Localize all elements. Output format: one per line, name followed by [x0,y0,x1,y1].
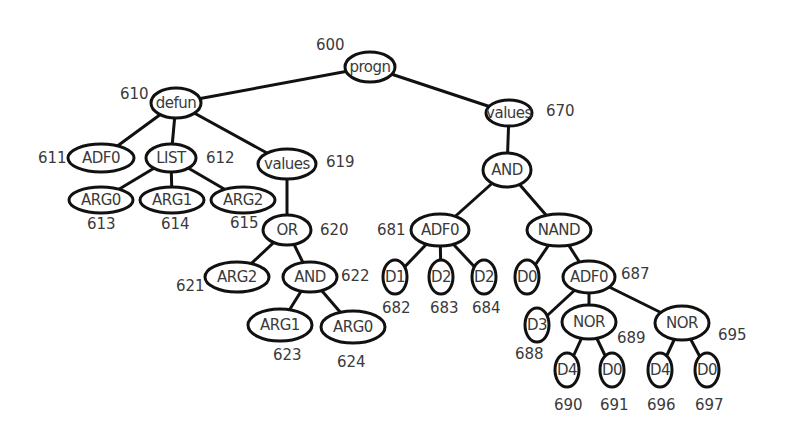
node-label: values [264,155,310,173]
node-label: ARG0 [333,318,373,336]
tree-node-n680: AND [483,153,531,187]
node-label: D4 [650,361,670,379]
node-label: NOR [666,314,698,332]
reference-numeral: 695 [718,326,747,344]
node-label: D2 [474,268,494,286]
tree-node-n670: values [486,100,533,126]
reference-numeral: 689 [617,329,646,347]
tree-node-n611: ADF0 [68,144,134,172]
reference-numeral: 610 [120,85,149,103]
tree-node-n695: NOR [655,306,709,340]
tree-node-n689: NOR [562,305,616,339]
tree-node-n621: ARG2 [205,262,269,292]
reference-numeral: 683 [430,299,459,317]
node-label: progn [349,58,390,76]
node-label: D1 [385,268,405,286]
tree-node-n685: NAND [527,214,591,246]
node-label: D3 [527,316,547,334]
node-label: ARG1 [152,191,192,209]
node-label: ADF0 [570,268,608,286]
tree-node-n690: D4 [555,353,579,387]
reference-numeral: 615 [230,214,259,232]
node-label: D2 [431,268,451,286]
node-label: ARG2 [217,268,257,286]
node-label: values [486,104,532,122]
reference-numeral: 690 [554,396,583,414]
node-label: ADF0 [82,149,120,167]
node-label: LIST [156,149,187,167]
reference-numerals: 6006106116126136146156196206216226236246… [38,36,747,414]
node-label: ARG1 [260,316,300,334]
tree-node-n612: LIST [146,144,196,172]
node-label: ARG0 [81,191,121,209]
reference-numeral: 620 [320,221,349,239]
tree-node-n622: AND [283,262,337,292]
reference-numeral: 622 [341,267,370,285]
node-label: ARG2 [223,191,263,209]
reference-numeral: 611 [38,149,67,167]
reference-numeral: 613 [87,215,116,233]
reference-numeral: 684 [472,299,501,317]
node-label: D0 [697,361,717,379]
reference-numeral: 670 [546,102,575,120]
tree-node-n683: D2 [429,260,453,294]
node-label: NAND [538,221,580,239]
tree-node-n614: ARG1 [140,187,204,213]
reference-numeral: 623 [273,346,302,364]
reference-numeral: 688 [515,345,544,363]
reference-numeral: 682 [382,299,411,317]
node-label: OR [276,221,297,239]
tree-node-n620: OR [263,215,311,245]
node-label: ADF0 [421,221,459,239]
tree-node-n697: D0 [695,353,719,387]
tree-node-n684: D2 [472,260,496,294]
tree-node-n623: ARG1 [248,309,312,341]
tree-node-n615: ARG2 [211,187,275,213]
tree-node-n696: D4 [648,353,672,387]
reference-numeral: 681 [377,221,406,239]
reference-numeral: 687 [621,265,650,283]
tree-node-n600: progn [345,52,395,82]
tree-node-n681: ADF0 [411,214,469,246]
tree-node-n682: D1 [383,260,407,294]
tree-node-n610: defun [151,88,201,118]
reference-numeral: 691 [600,396,629,414]
tree-node-n688: D3 [525,308,549,342]
reference-numeral: 624 [337,353,366,371]
node-label: AND [294,268,326,286]
reference-numeral: 614 [161,215,190,233]
node-label: defun [156,94,197,112]
reference-numeral: 619 [326,153,355,171]
tree-node-n613: ARG0 [69,187,133,213]
reference-numeral: 696 [647,396,676,414]
reference-numeral: 600 [316,36,345,54]
program-tree-diagram: progndefunADF0LISTARG0ARG1ARG2valuesORAR… [0,0,790,435]
node-label: D0 [517,268,537,286]
reference-numeral: 612 [206,149,235,167]
tree-node-n687: ADF0 [563,261,615,293]
tree-node-n624: ARG0 [321,311,385,343]
edge-n600-n610 [176,67,370,103]
reference-numeral: 697 [695,396,724,414]
node-label: D0 [602,361,622,379]
reference-numeral: 621 [176,277,205,295]
node-label: NOR [573,313,605,331]
node-label: D4 [557,361,577,379]
tree-node-n691: D0 [600,353,624,387]
tree-node-n686: D0 [515,260,539,294]
tree-node-n619: values [258,149,316,179]
node-label: AND [491,161,523,179]
